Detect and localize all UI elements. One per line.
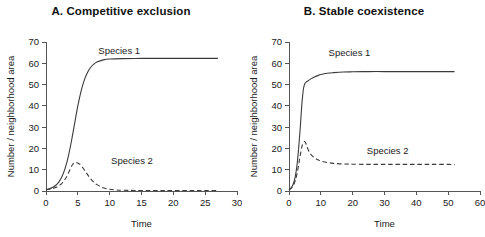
x-tick-label: 0 [43,197,48,208]
x-tick-label: 10 [316,197,327,208]
x-tick-label: 10 [104,197,115,208]
y-tick-label: 50 [271,79,282,90]
y-axis-title: Number / neighborhood area [248,55,259,177]
y-tick-label: 50 [28,79,39,90]
series-label-1: Species 1 [329,47,371,58]
curve-1 [289,72,455,190]
x-tick-label: 30 [232,197,242,208]
x-axis-title: Time [131,218,152,229]
y-tick-label: 20 [28,143,39,154]
x-tick-label: 15 [136,197,147,208]
curve-1 [46,58,218,189]
x-tick-label: 40 [411,197,422,208]
y-tick-label: 60 [271,58,282,69]
y-tick-label: 30 [28,122,39,133]
x-tick-label: 50 [443,197,454,208]
x-tick-label: 20 [168,197,179,208]
panel-b-plot: 0102030405060700102030405060TimeNumber /… [243,0,485,237]
x-tick-label: 60 [475,197,485,208]
x-axis-title: Time [374,218,395,229]
series-label-2: Species 2 [111,155,153,166]
figure-container: A. Competitive exclusion 010203040506070… [0,0,485,237]
x-tick-label: 20 [347,197,358,208]
x-tick-label: 5 [75,197,80,208]
y-tick-label: 10 [28,164,39,175]
panel-a: A. Competitive exclusion 010203040506070… [0,0,242,237]
series-label-2: Species 2 [367,145,409,156]
y-axis-title: Number / neighborhood area [5,55,16,177]
y-tick-label: 30 [271,122,282,133]
x-tick-label: 25 [200,197,211,208]
y-tick-label: 0 [34,185,39,196]
panel-a-plot: 010203040506070051015202530TimeNumber / … [0,0,242,237]
y-tick-label: 40 [28,100,39,111]
x-tick-label: 30 [379,197,390,208]
y-tick-label: 60 [28,58,39,69]
y-tick-label: 10 [271,164,282,175]
x-tick-label: 0 [286,197,291,208]
y-tick-label: 0 [277,185,282,196]
y-tick-label: 20 [271,143,282,154]
y-tick-label: 40 [271,100,282,111]
y-tick-label: 70 [271,36,282,47]
panel-b: B. Stable coexistence 010203040506070010… [243,0,485,237]
series-label-1: Species 1 [98,45,140,56]
curve-2 [46,163,218,191]
y-tick-label: 70 [28,36,39,47]
